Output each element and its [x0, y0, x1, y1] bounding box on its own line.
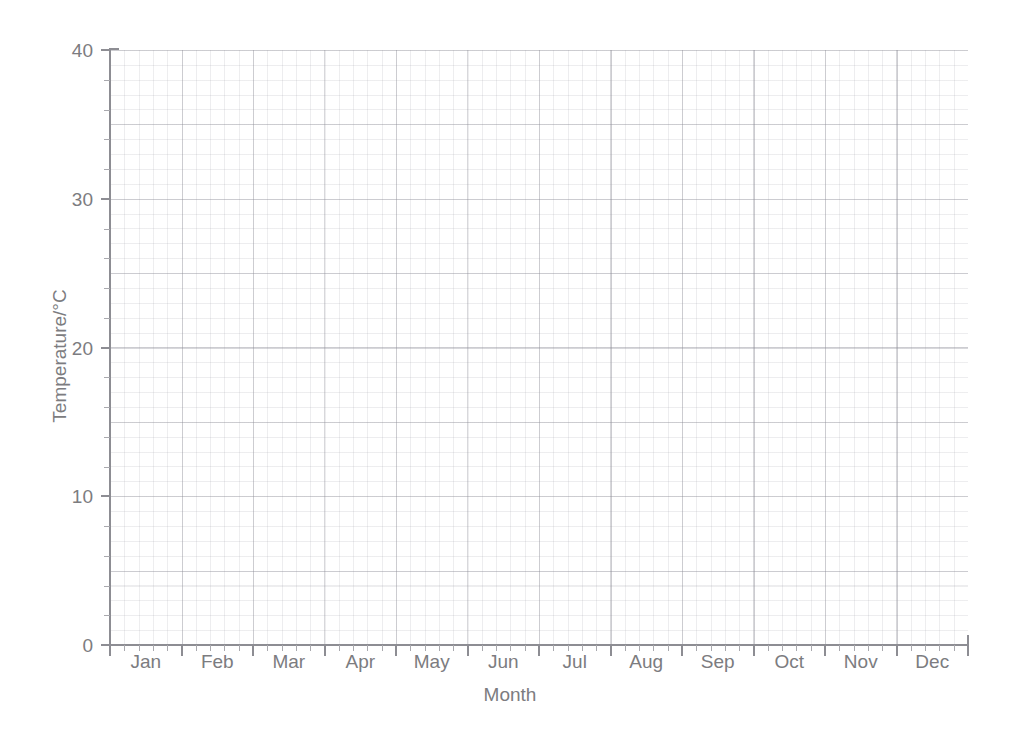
x-tick-minor	[739, 645, 740, 651]
x-tick-minor	[267, 645, 268, 651]
x-tick-label: Dec	[887, 652, 977, 671]
x-tick-minor	[167, 645, 168, 651]
x-tick-minor	[239, 645, 240, 651]
y-tick-label: 10	[23, 487, 93, 506]
y-tick-minor	[104, 169, 110, 170]
x-tick-minor	[124, 645, 125, 651]
x-tick-minor	[596, 645, 597, 651]
x-tick-minor	[696, 645, 697, 651]
x-tick-minor	[954, 645, 955, 651]
x-tick-minor	[525, 645, 526, 651]
x-tick-minor	[196, 645, 197, 651]
x-tick-minor	[625, 645, 626, 651]
y-tick-minor	[104, 437, 110, 438]
x-tick-minor	[911, 645, 912, 651]
x-tick-minor	[668, 645, 669, 651]
y-tick-major	[101, 347, 110, 349]
x-tick-minor	[882, 645, 883, 651]
x-tick-minor	[839, 645, 840, 651]
y-tick-minor	[104, 258, 110, 259]
y-axis-title: Temperature/°C	[49, 256, 71, 456]
y-tick-label: 30	[23, 189, 93, 208]
x-tick-minor	[768, 645, 769, 651]
y-tick-major	[101, 198, 110, 200]
y-tick-minor	[104, 139, 110, 140]
x-tick-minor	[339, 645, 340, 651]
y-tick-minor	[104, 377, 110, 378]
y-tick-label: 0	[23, 636, 93, 655]
y-tick-label: 40	[23, 41, 93, 60]
x-tick-minor	[811, 645, 812, 651]
x-tick-minor	[453, 645, 454, 651]
x-tick-minor	[410, 645, 411, 651]
y-tick-minor	[104, 80, 110, 81]
y-tick-minor	[104, 110, 110, 111]
y-tick-minor	[104, 229, 110, 230]
y-tick-minor	[104, 318, 110, 319]
x-tick-minor	[310, 645, 311, 651]
x-tick-minor	[553, 645, 554, 651]
x-axis-title: Month	[440, 684, 580, 706]
y-tick-minor	[104, 407, 110, 408]
temperature-month-chart: 010203040 JanFebMarAprMayJunJulAugSepOct…	[0, 0, 1017, 756]
y-tick-minor	[104, 467, 110, 468]
y-tick-major	[101, 495, 110, 497]
y-tick-minor	[104, 586, 110, 587]
x-tick-minor	[382, 645, 383, 651]
y-axis-top-cap	[110, 48, 119, 50]
x-tick-minor	[482, 645, 483, 651]
y-tick-minor	[104, 288, 110, 289]
y-tick-major	[101, 49, 110, 51]
plot-area-grid	[110, 50, 968, 645]
y-tick-minor	[104, 526, 110, 527]
y-tick-minor	[104, 615, 110, 616]
y-tick-minor	[104, 556, 110, 557]
